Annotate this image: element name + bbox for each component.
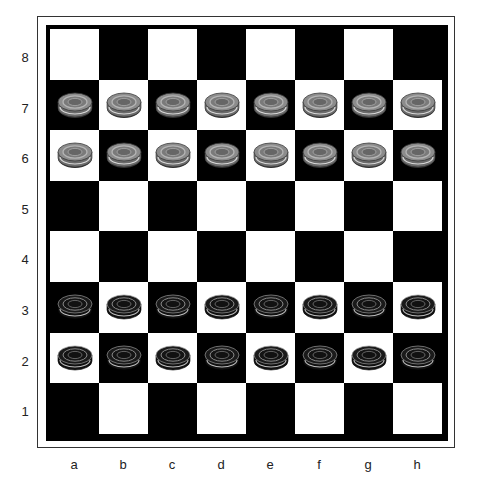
black-checker-piece-icon[interactable]	[155, 344, 191, 372]
gray-checker-piece-icon[interactable]	[155, 141, 191, 169]
square-f3[interactable]	[295, 282, 344, 333]
square-b5[interactable]	[99, 181, 148, 232]
gray-checker-piece-icon[interactable]	[204, 141, 240, 169]
black-checker-piece-icon[interactable]	[204, 344, 240, 372]
gray-checker-piece-icon[interactable]	[57, 91, 93, 119]
square-h1[interactable]	[393, 383, 442, 434]
square-d4[interactable]	[197, 231, 246, 282]
black-checker-piece-icon[interactable]	[253, 344, 289, 372]
square-g3[interactable]	[344, 282, 393, 333]
rank-label-5: 5	[18, 202, 32, 217]
gray-checker-piece-icon[interactable]	[106, 141, 142, 169]
black-checker-piece-icon[interactable]	[57, 293, 93, 321]
square-a3[interactable]	[50, 282, 99, 333]
square-a6[interactable]	[50, 130, 99, 181]
square-d1[interactable]	[197, 383, 246, 434]
square-d7[interactable]	[197, 80, 246, 131]
gray-checker-piece-icon[interactable]	[57, 141, 93, 169]
square-f7[interactable]	[295, 80, 344, 131]
gray-checker-piece-icon[interactable]	[302, 141, 338, 169]
square-g1[interactable]	[344, 383, 393, 434]
gray-checker-piece-icon[interactable]	[155, 91, 191, 119]
square-a8[interactable]	[50, 29, 99, 80]
square-d6[interactable]	[197, 130, 246, 181]
square-e8[interactable]	[246, 29, 295, 80]
square-c6[interactable]	[148, 130, 197, 181]
square-a5[interactable]	[50, 181, 99, 232]
gray-checker-piece-icon[interactable]	[351, 141, 387, 169]
square-f5[interactable]	[295, 181, 344, 232]
square-f8[interactable]	[295, 29, 344, 80]
black-checker-piece-icon[interactable]	[302, 344, 338, 372]
square-h3[interactable]	[393, 282, 442, 333]
black-checker-piece-icon[interactable]	[106, 344, 142, 372]
square-g2[interactable]	[344, 333, 393, 384]
gray-checker-piece-icon[interactable]	[204, 91, 240, 119]
gray-checker-piece-icon[interactable]	[106, 91, 142, 119]
square-g5[interactable]	[344, 181, 393, 232]
gray-checker-piece-icon[interactable]	[400, 91, 436, 119]
black-checker-piece-icon[interactable]	[351, 344, 387, 372]
square-f6[interactable]	[295, 130, 344, 181]
square-b4[interactable]	[99, 231, 148, 282]
square-h7[interactable]	[393, 80, 442, 131]
square-d3[interactable]	[197, 282, 246, 333]
black-checker-piece-icon[interactable]	[57, 344, 93, 372]
square-b2[interactable]	[99, 333, 148, 384]
square-h4[interactable]	[393, 231, 442, 282]
square-d8[interactable]	[197, 29, 246, 80]
file-label-e: e	[260, 457, 280, 472]
square-a1[interactable]	[50, 383, 99, 434]
file-label-a: a	[64, 457, 84, 472]
black-checker-piece-icon[interactable]	[400, 344, 436, 372]
square-c1[interactable]	[148, 383, 197, 434]
black-checker-piece-icon[interactable]	[400, 293, 436, 321]
square-a4[interactable]	[50, 231, 99, 282]
square-b1[interactable]	[99, 383, 148, 434]
black-checker-piece-icon[interactable]	[302, 293, 338, 321]
black-checker-piece-icon[interactable]	[106, 293, 142, 321]
square-a7[interactable]	[50, 80, 99, 131]
square-g8[interactable]	[344, 29, 393, 80]
file-label-b: b	[113, 457, 133, 472]
gray-checker-piece-icon[interactable]	[400, 141, 436, 169]
gray-checker-piece-icon[interactable]	[253, 91, 289, 119]
square-f4[interactable]	[295, 231, 344, 282]
square-c3[interactable]	[148, 282, 197, 333]
square-h8[interactable]	[393, 29, 442, 80]
square-g6[interactable]	[344, 130, 393, 181]
square-c8[interactable]	[148, 29, 197, 80]
square-b8[interactable]	[99, 29, 148, 80]
black-checker-piece-icon[interactable]	[155, 293, 191, 321]
square-b3[interactable]	[99, 282, 148, 333]
square-e6[interactable]	[246, 130, 295, 181]
square-e5[interactable]	[246, 181, 295, 232]
square-f2[interactable]	[295, 333, 344, 384]
square-f1[interactable]	[295, 383, 344, 434]
square-b6[interactable]	[99, 130, 148, 181]
square-e1[interactable]	[246, 383, 295, 434]
black-checker-piece-icon[interactable]	[204, 293, 240, 321]
square-e2[interactable]	[246, 333, 295, 384]
square-c2[interactable]	[148, 333, 197, 384]
gray-checker-piece-icon[interactable]	[253, 141, 289, 169]
square-h6[interactable]	[393, 130, 442, 181]
square-b7[interactable]	[99, 80, 148, 131]
black-checker-piece-icon[interactable]	[253, 293, 289, 321]
gray-checker-piece-icon[interactable]	[351, 91, 387, 119]
square-c4[interactable]	[148, 231, 197, 282]
black-checker-piece-icon[interactable]	[351, 293, 387, 321]
square-h5[interactable]	[393, 181, 442, 232]
square-g4[interactable]	[344, 231, 393, 282]
square-d5[interactable]	[197, 181, 246, 232]
gray-checker-piece-icon[interactable]	[302, 91, 338, 119]
square-a2[interactable]	[50, 333, 99, 384]
square-g7[interactable]	[344, 80, 393, 131]
square-e4[interactable]	[246, 231, 295, 282]
square-e3[interactable]	[246, 282, 295, 333]
square-h2[interactable]	[393, 333, 442, 384]
square-d2[interactable]	[197, 333, 246, 384]
square-c7[interactable]	[148, 80, 197, 131]
square-c5[interactable]	[148, 181, 197, 232]
square-e7[interactable]	[246, 80, 295, 131]
